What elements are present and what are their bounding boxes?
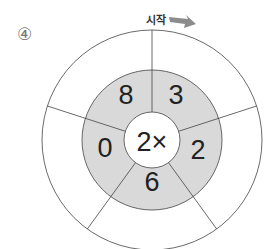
- multiplication-wheel-diagram: ④ 2× 3 2 6 0 8 시작: [0, 0, 271, 249]
- sector-value-right: 2: [190, 135, 205, 165]
- sector-value-bottom: 6: [144, 167, 159, 197]
- sector-value-left: 0: [97, 133, 112, 163]
- problem-number: ④: [17, 24, 32, 44]
- center-operator-label: 2×: [137, 127, 168, 157]
- sector-value-top-left: 8: [118, 80, 133, 110]
- start-label: 시작: [146, 13, 166, 27]
- sector-value-top-right: 3: [168, 80, 183, 110]
- clockwise-arrow-icon: [169, 15, 196, 28]
